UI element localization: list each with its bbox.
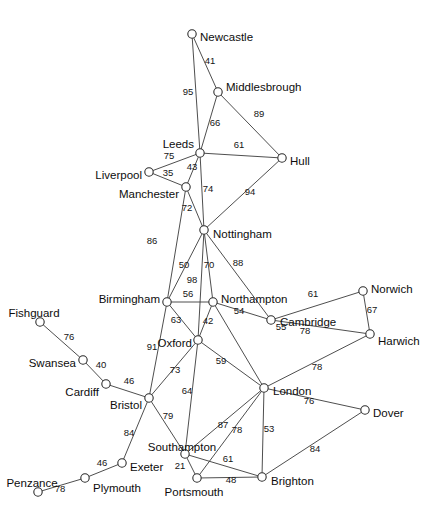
node-harwich[interactable] <box>366 330 374 338</box>
node-nottingham[interactable] <box>200 226 208 234</box>
network-graph-container: 4195668961754335749472865098708856916342… <box>0 0 443 526</box>
node-label-middlesbrough: Middlesbrough <box>226 81 301 93</box>
node-portsmouth[interactable] <box>193 474 201 482</box>
edge-oxford-southampton <box>185 344 197 450</box>
edge-weight-birmingham-bristol: 91 <box>147 341 158 352</box>
node-label-newcastle: Newcastle <box>200 31 253 43</box>
edge-weight-birmingham-oxford: 63 <box>171 314 182 325</box>
node-northampton[interactable] <box>209 298 217 306</box>
edge-weight-manchester-nottingham: 72 <box>182 202 193 213</box>
node-label-dover: Dover <box>373 407 404 419</box>
node-label-harwich: Harwich <box>378 335 420 347</box>
node-label-birmingham: Birmingham <box>99 293 160 305</box>
edge-cardiff-bristol <box>110 385 145 396</box>
edge-weight-leeds-nottingham: 74 <box>203 183 214 194</box>
node-label-norwich: Norwich <box>371 283 413 295</box>
node-cardiff[interactable] <box>102 380 110 388</box>
edge-weight-nottingham-birmingham: 50 <box>179 259 190 270</box>
edge-weight-middlesbrough-hull: 89 <box>254 108 265 119</box>
edge-oxford-london <box>201 342 260 385</box>
node-exeter[interactable] <box>118 459 126 467</box>
edge-weight-exeter-plymouth: 46 <box>97 457 108 468</box>
node-label-fishguard: Fishguard <box>8 307 59 319</box>
node-label-plymouth: Plymouth <box>93 482 141 494</box>
edge-weight-nottingham-northampton: 70 <box>204 259 215 270</box>
edge-weight-fishguard-swansea: 76 <box>64 331 75 342</box>
node-oxford[interactable] <box>194 336 202 344</box>
network-graph-canvas: 4195668961754335749472865098708856916342… <box>0 0 443 526</box>
edge-weight-london-brighton: 53 <box>264 423 275 434</box>
edge-weight-harwich-london: 78 <box>312 361 323 372</box>
node-plymouth[interactable] <box>81 474 89 482</box>
node-label-bristol: Bristol <box>110 399 142 411</box>
edge-weight-southampton-london: 87 <box>218 419 229 430</box>
node-label-cambridge: Cambridge <box>280 316 336 328</box>
edge-weight-newcastle-middlesbrough: 41 <box>205 55 216 66</box>
edge-weight-portsmouth-brighton: 48 <box>226 474 237 485</box>
node-label-portsmouth: Portsmouth <box>165 486 224 498</box>
node-label-manchester: Manchester <box>119 188 179 200</box>
edge-southampton-portsmouth <box>187 458 195 474</box>
edge-weight-leeds-liverpool: 75 <box>164 150 175 161</box>
edge-weight-oxford-bristol: 73 <box>170 364 181 375</box>
edge-weight-manchester-birmingham: 86 <box>147 235 158 246</box>
node-label-hull: Hull <box>290 155 310 167</box>
edge-weight-nottingham-cambridge: 88 <box>233 257 244 268</box>
node-label-leeds: Leeds <box>163 138 195 150</box>
edge-weight-norwich-harwich: 67 <box>367 304 378 315</box>
edge-weight-birmingham-northampton: 56 <box>183 288 194 299</box>
edge-weight-nottingham-oxford: 98 <box>187 274 198 285</box>
edge-weight-swansea-cardiff: 40 <box>96 359 107 370</box>
edge-fishguard-swansea <box>43 325 80 357</box>
edge-weight-northampton-oxford: 42 <box>203 315 214 326</box>
edge-weight-dover-brighton: 84 <box>310 443 321 454</box>
edge-weight-cambridge-norwich: 61 <box>308 288 319 299</box>
edge-weight-southampton-brighton: 61 <box>223 453 234 464</box>
node-label-brighton: Brighton <box>271 475 314 487</box>
edge-weight-bristol-exeter: 84 <box>124 427 135 438</box>
node-fishguard[interactable] <box>36 318 44 326</box>
node-label-cardiff: Cardiff <box>65 386 99 398</box>
node-newcastle[interactable] <box>188 30 196 38</box>
edge-weight-liverpool-manchester: 35 <box>163 167 174 178</box>
edge-weight-middlesbrough-leeds: 66 <box>210 117 221 128</box>
node-label-northampton: Northampton <box>221 293 287 305</box>
edge-weight-leeds-hull: 61 <box>234 139 245 150</box>
node-label-nottingham: Nottingham <box>213 228 272 240</box>
node-leeds[interactable] <box>196 149 204 157</box>
edge-weight-bristol-southampton: 79 <box>163 410 174 421</box>
node-middlesbrough[interactable] <box>214 88 222 96</box>
edge-middlesbrough-hull <box>221 95 279 155</box>
node-label-exeter: Exeter <box>130 461 163 473</box>
node-swansea[interactable] <box>79 356 87 364</box>
node-liverpool[interactable] <box>145 168 153 176</box>
node-label-liverpool: Liverpool <box>95 169 142 181</box>
edge-weight-newcastle-leeds: 95 <box>183 86 194 97</box>
node-label-penzance: Penzance <box>6 477 57 489</box>
edge-weight-northampton-cambridge: 54 <box>234 305 245 316</box>
node-cambridge[interactable] <box>267 316 275 324</box>
node-london[interactable] <box>260 384 268 392</box>
node-brighton[interactable] <box>258 473 266 481</box>
node-birmingham[interactable] <box>163 298 171 306</box>
node-hull[interactable] <box>278 154 286 162</box>
edge-weight-cardiff-bristol: 46 <box>124 375 135 386</box>
node-norwich[interactable] <box>359 287 367 295</box>
edge-newcastle-leeds <box>192 38 199 149</box>
node-dover[interactable] <box>361 406 369 414</box>
edge-weight-southampton-portsmouth: 21 <box>175 460 186 471</box>
node-manchester[interactable] <box>182 183 190 191</box>
edge-weight-oxford-southampton: 64 <box>182 385 193 396</box>
node-label-southampton: Southampton <box>148 441 216 453</box>
node-label-oxford: Oxford <box>157 337 192 349</box>
node-penzance[interactable] <box>34 488 42 496</box>
edge-weight-leeds-manchester: 43 <box>187 161 198 172</box>
edge-weight-oxford-london: 59 <box>216 355 227 366</box>
edge-weight-hull-nottingham: 94 <box>245 186 256 197</box>
node-bristol[interactable] <box>145 394 153 402</box>
edge-weight-portsmouth-london: 78 <box>232 424 243 435</box>
edge-northampton-london <box>215 306 262 385</box>
node-label-swansea: Swansea <box>29 357 77 369</box>
edge-leeds-hull <box>204 153 278 157</box>
edge-hull-nottingham <box>207 161 279 227</box>
